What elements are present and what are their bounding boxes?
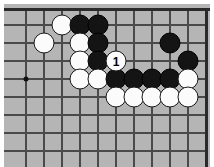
move-1-stone: 1 — [106, 51, 127, 72]
go-board: 1 — [4, 4, 210, 167]
board-edge-right — [205, 8, 208, 167]
board-edge-top — [4, 8, 210, 11]
white-stone-2 — [34, 33, 55, 54]
grid-line-horizontal-7 — [4, 150, 207, 152]
grid-line-horizontal-6 — [4, 132, 207, 134]
hoshi-upper-left — [24, 77, 29, 82]
go-diagram-root: 1 — [0, 0, 214, 167]
move-number-label: 1 — [107, 52, 126, 71]
white-stone-12 — [178, 87, 199, 108]
black-stone-4 — [160, 33, 181, 54]
grid-line-vertical-0 — [25, 10, 27, 167]
grid-line-horizontal-5 — [4, 114, 207, 116]
